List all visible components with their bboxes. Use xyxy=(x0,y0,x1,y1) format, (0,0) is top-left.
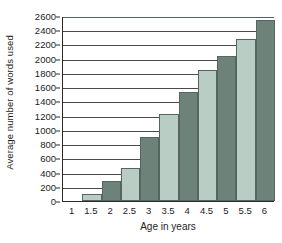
bar xyxy=(236,39,255,201)
y-axis-tick-label: 1200 xyxy=(35,112,56,122)
x-axis-tick-label: 5.5 xyxy=(238,205,251,216)
x-axis-tick-label: 3 xyxy=(146,205,151,216)
bar xyxy=(198,70,217,201)
bar xyxy=(179,92,198,201)
bar xyxy=(159,114,178,201)
bar xyxy=(140,137,159,201)
y-axis-tick-label: 2600 xyxy=(35,12,56,22)
x-axis-tick-label: 4 xyxy=(185,205,190,216)
y-axis-tick-label: 200 xyxy=(40,183,56,193)
bar xyxy=(256,20,275,201)
y-axis-tick-mark xyxy=(56,187,60,188)
x-axis-tick-labels: 11.522.533.544.555.56 xyxy=(62,205,274,219)
x-axis-title: Age in years xyxy=(62,221,274,232)
y-axis-tick-mark xyxy=(56,145,60,146)
y-axis-tick-label: 400 xyxy=(40,169,56,179)
y-axis-title-label: Average number of words used xyxy=(4,35,15,170)
y-axis-tick-mark xyxy=(56,45,60,46)
bars-layer xyxy=(63,17,274,201)
x-axis-tick-label: 5 xyxy=(223,205,228,216)
x-axis-tick-label: 2.5 xyxy=(123,205,136,216)
y-axis-tick-mark xyxy=(56,202,60,203)
y-axis-tick-label: 1800 xyxy=(35,69,56,79)
x-axis-tick-label: 4.5 xyxy=(200,205,213,216)
x-axis-tick-label: 3.5 xyxy=(161,205,174,216)
y-axis-tick-mark xyxy=(56,88,60,89)
y-axis-tick-mark xyxy=(56,31,60,32)
y-axis-tick-label: 1000 xyxy=(35,126,56,136)
x-axis-tick-label: 2 xyxy=(108,205,113,216)
y-axis-tick-label: 600 xyxy=(40,155,56,165)
y-axis-tick-label: 1600 xyxy=(35,83,56,93)
y-axis-tick-mark xyxy=(56,130,60,131)
bar xyxy=(217,56,236,201)
y-axis-tick-mark xyxy=(56,102,60,103)
y-axis-tick-mark xyxy=(56,159,60,160)
bar xyxy=(102,181,121,201)
y-axis-title: Average number of words used xyxy=(0,0,18,205)
x-axis-tick-label: 1.5 xyxy=(84,205,97,216)
x-axis-tick-label: 6 xyxy=(262,205,267,216)
y-axis-tick-label: 1400 xyxy=(35,98,56,108)
bar xyxy=(121,168,140,201)
y-axis-tick-mark xyxy=(56,73,60,74)
y-axis-tick-label: 2000 xyxy=(35,55,56,65)
y-axis-tick-label: 2200 xyxy=(35,41,56,51)
y-axis-tick-mark xyxy=(56,59,60,60)
y-axis-tick-label: 800 xyxy=(40,140,56,150)
y-axis-tick-mark xyxy=(56,17,60,18)
bar xyxy=(82,194,101,201)
bar-chart: Average number of words used 02004006008… xyxy=(0,0,282,243)
y-axis-tick-label: 2400 xyxy=(35,26,56,36)
y-axis-tick-mark xyxy=(56,116,60,117)
plot-area xyxy=(62,17,274,202)
y-axis-tick-mark xyxy=(56,173,60,174)
y-axis-tick-labels: 0200400600800100012001400160018002000220… xyxy=(18,17,60,202)
x-axis-tick-label: 1 xyxy=(69,205,74,216)
